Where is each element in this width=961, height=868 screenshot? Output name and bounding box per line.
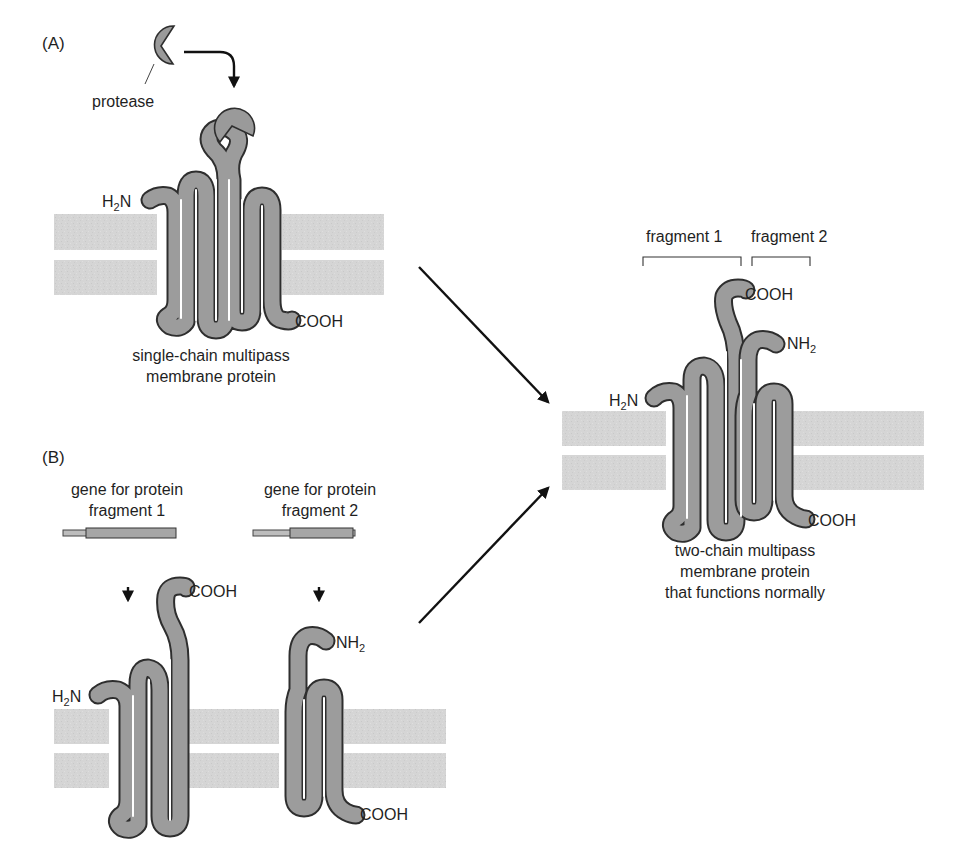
- protease-leader-line: [145, 64, 154, 84]
- panel-a: (A) protease H2N COOH single-chain multi…: [42, 26, 384, 385]
- panel-a-n-terminus: H2N: [102, 193, 131, 213]
- fragment-1-c-terminus: COOH: [189, 583, 237, 600]
- membrane-outer-leaflet-left: [54, 214, 157, 250]
- single-chain-protein: [150, 127, 292, 330]
- membrane-result-outer-right: [792, 411, 924, 446]
- bracket-fragment-2: [752, 257, 810, 266]
- panel-b: (B) gene for protein fragment 1 gene for…: [42, 448, 446, 829]
- result-panel: fragment 1 fragment 2 H2N COOH NH2 COOH: [562, 228, 924, 601]
- membrane-b-inner-1: [54, 753, 109, 788]
- membrane-inner-leaflet-left: [54, 260, 157, 295]
- result-c-terminus-2: COOH: [808, 512, 856, 529]
- panel-b-label: (B): [42, 448, 65, 467]
- protease-label: protease: [92, 93, 154, 110]
- gene-2-caption-line-1: gene for protein: [264, 481, 376, 498]
- membrane-result-inner-left: [562, 455, 666, 490]
- gene-1: [63, 528, 176, 538]
- panel-a-caption-line-1: single-chain multipass: [132, 347, 289, 364]
- bracket-1-label: fragment 1: [646, 228, 723, 245]
- panel-a-label: (A): [42, 34, 65, 53]
- membrane-b-inner-3: [344, 753, 446, 788]
- panel-a-c-terminus: COOH: [295, 313, 343, 330]
- bracket-fragment-1: [643, 257, 741, 266]
- membrane-b-outer-3: [344, 709, 446, 744]
- membrane-result-inner-right: [792, 455, 924, 490]
- fragment-2-n-terminus: NH2: [336, 634, 365, 654]
- membrane-b-outer-2: [186, 709, 279, 744]
- membrane-b-outer-1: [54, 709, 109, 744]
- assembled-fragment-1: [654, 288, 746, 533]
- protease-binding-arrow: [184, 52, 234, 86]
- result-caption-line-3: that functions normally: [665, 584, 825, 601]
- bracket-2-label: fragment 2: [751, 228, 828, 245]
- protease-icon: [154, 26, 174, 64]
- membrane-result-outer-left: [562, 411, 666, 446]
- panel-a-caption-line-2: membrane protein: [146, 368, 276, 385]
- gene-2: [253, 528, 355, 538]
- membrane-outer-leaflet-right: [282, 214, 384, 250]
- membrane-b-inner-2: [186, 753, 279, 788]
- fragment-1-protein: [98, 586, 186, 829]
- fragment-1-n-terminus: H2N: [52, 688, 81, 708]
- membrane-protein-figure: (A) protease H2N COOH single-chain multi…: [0, 0, 961, 868]
- arrow-b-to-result: [419, 488, 548, 623]
- gene-1-caption-line-2: fragment 1: [89, 502, 166, 519]
- gene-1-caption-line-1: gene for protein: [71, 481, 183, 498]
- result-n-terminus-2: NH2: [787, 335, 816, 355]
- arrow-a-to-result: [419, 267, 548, 402]
- fragment-2-c-terminus: COOH: [360, 806, 408, 823]
- result-c-terminus-1: COOH: [745, 286, 793, 303]
- result-caption-line-1: two-chain multipass: [675, 542, 816, 559]
- result-n-terminus-1: H2N: [609, 392, 638, 412]
- gene-2-caption-line-2: fragment 2: [282, 502, 359, 519]
- result-caption-line-2: membrane protein: [680, 563, 810, 580]
- membrane-inner-leaflet-right: [282, 260, 384, 295]
